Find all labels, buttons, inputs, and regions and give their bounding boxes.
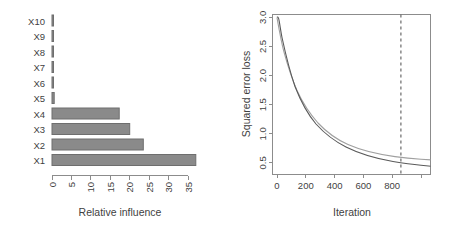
loss-x-axis	[277, 174, 421, 178]
bar-ylabel-x4: X4	[33, 109, 45, 120]
barplot-x-ticklabels: 0 5 10 15 20 25 30 35	[47, 182, 194, 193]
bar-x4	[52, 108, 119, 119]
bar-xtick-15: 15	[105, 182, 116, 193]
barplot-x-axis	[52, 176, 188, 180]
loss-xtick-600: 600	[355, 180, 371, 191]
bar-xtick-0: 0	[47, 182, 58, 187]
loss-ytick-10: 1.0	[257, 127, 268, 140]
loss-x-ticklabels: 0 200 400 600 800	[274, 180, 400, 191]
bar-ylabel-x9: X9	[33, 31, 45, 42]
train-loss-curve	[277, 17, 431, 166]
loss-ytick-25: 2.5	[257, 40, 268, 53]
barplot-y-ticklabels: X10 X9 X8 X7 X6 X5 X4 X3 X2 X1	[28, 16, 45, 167]
cv-loss-curve	[277, 18, 431, 160]
barplot-xaxis-title: Relative influence	[79, 206, 162, 218]
bar-ylabel-x3: X3	[33, 124, 45, 135]
bar-x9	[52, 31, 54, 42]
bar-ylabel-x8: X8	[33, 47, 45, 58]
loss-y-axis	[269, 17, 273, 163]
bar-xtick-30: 30	[163, 182, 174, 193]
bar-xtick-20: 20	[124, 182, 135, 193]
figure-svg: X10 X9 X8 X7 X6 X5 X4 X3 X2 X1	[0, 0, 449, 231]
loss-ytick-05: 0.5	[257, 156, 268, 169]
loss-curves	[277, 17, 431, 166]
loss-xtick-200: 200	[298, 180, 314, 191]
loss-ytick-15: 1.5	[257, 98, 268, 111]
loss-ytick-20: 2.0	[257, 69, 268, 82]
bar-x7	[52, 62, 54, 73]
loss-xtick-800: 800	[384, 180, 400, 191]
loss-curve-plot: 0.5 1.0 1.5 2.0 2.5 3.0 0 200 400 600	[240, 11, 431, 218]
figure-canvas: X10 X9 X8 X7 X6 X5 X4 X3 X2 X1	[0, 0, 449, 231]
loss-xaxis-title: Iteration	[333, 206, 371, 218]
bar-ylabel-x10: X10	[28, 16, 45, 27]
bar-x1	[52, 155, 196, 166]
loss-yaxis-title: Squared error loss	[240, 51, 252, 137]
bar-ylabel-x7: X7	[33, 62, 45, 73]
bar-x10	[52, 15, 54, 26]
bar-xtick-25: 25	[144, 182, 155, 193]
bar-ylabel-x5: X5	[33, 93, 45, 104]
loss-xtick-400: 400	[327, 180, 343, 191]
bar-x8	[52, 46, 54, 57]
loss-ytick-30: 3.0	[257, 11, 268, 24]
loss-xtick-0: 0	[274, 180, 279, 191]
bar-xtick-10: 10	[85, 182, 96, 193]
bar-x2	[52, 139, 143, 150]
bar-ylabel-x6: X6	[33, 78, 45, 89]
bar-ylabel-x2: X2	[33, 140, 45, 151]
bar-x5	[52, 93, 54, 104]
bar-ylabel-x1: X1	[33, 155, 45, 166]
loss-y-ticklabels: 0.5 1.0 1.5 2.0 2.5 3.0	[257, 11, 268, 170]
bar-xtick-35: 35	[183, 182, 194, 193]
bar-xtick-5: 5	[66, 182, 77, 187]
relative-influence-barplot: X10 X9 X8 X7 X6 X5 X4 X3 X2 X1	[28, 15, 196, 218]
bar-x6	[52, 77, 54, 88]
bar-x3	[52, 124, 130, 135]
barplot-bars	[52, 15, 196, 166]
